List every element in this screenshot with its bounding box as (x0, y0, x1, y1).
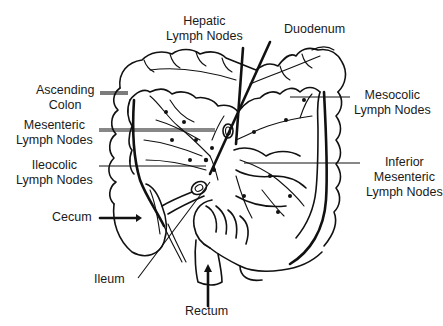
mesenteric-vessels (144, 94, 312, 218)
label-cecum: Cecum (52, 210, 92, 225)
label-hepatic-lymph-nodes: Hepatic Lymph Nodes (166, 14, 243, 44)
label-ileum: Ileum (94, 272, 125, 287)
ascending-colon (109, 88, 164, 226)
label-duodenum: Duodenum (284, 22, 345, 37)
label-inferior-mesenteric-lymph-nodes: Inferior Mesenteric Lymph Nodes (366, 155, 443, 200)
label-ileocolic-lymph-nodes: Ileocolic Lymph Nodes (16, 158, 93, 188)
label-mesocolic-lymph-nodes: Mesocolic Lymph Nodes (354, 88, 431, 118)
cecum (114, 184, 186, 262)
ileum (162, 179, 209, 214)
label-rectum: Rectum (185, 304, 228, 319)
label-ascending-colon: Ascending Colon (36, 83, 94, 113)
transverse-colon (120, 47, 346, 112)
sigmoid-colon (194, 200, 322, 285)
label-mesenteric-lymph-nodes: Mesenteric Lymph Nodes (16, 118, 93, 148)
